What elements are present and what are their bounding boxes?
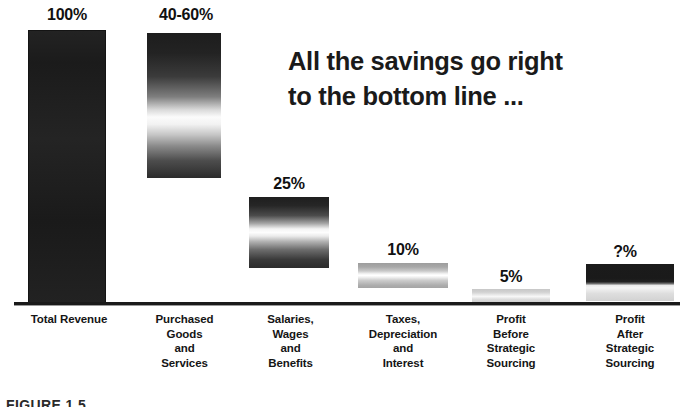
cat-line: Strategic <box>582 341 678 356</box>
value-label-salaries: 25% <box>249 175 329 193</box>
figure-caption: FIGURE 1.5 <box>6 398 86 407</box>
cat-line: Profit <box>582 312 678 327</box>
cat-line: Sourcing <box>463 356 559 371</box>
cat-line: and <box>349 341 457 356</box>
bar-total-revenue <box>28 30 106 303</box>
category-label-salaries: Salaries, Wages and Benefits <box>243 312 338 370</box>
callout-line-1: All the savings go right <box>288 44 688 79</box>
cat-line: Wages <box>243 327 338 342</box>
category-label-purchased-goods: Purchased Goods and Services <box>137 312 232 370</box>
cat-line: Depreciation <box>349 327 457 342</box>
cat-line: Total Revenue <box>14 312 124 327</box>
axis-baseline <box>14 302 680 305</box>
bar-taxes-depreciation-and-interest <box>358 263 448 288</box>
category-label-profit-after: Profit After Strategic Sourcing <box>582 312 678 370</box>
cat-line: Purchased <box>137 312 232 327</box>
value-label-total-revenue: 100% <box>28 6 106 24</box>
cat-line: Sourcing <box>582 356 678 371</box>
value-label-profit-after: ?% <box>586 243 664 261</box>
bar-profit-before-strategic-sourcing <box>472 289 550 302</box>
category-label-profit-before: Profit Before Strategic Sourcing <box>463 312 559 370</box>
cat-line: After <box>582 327 678 342</box>
figure-container: 100% 40-60% 25% 10% 5% ?% Total Revenue … <box>0 0 694 411</box>
category-label-taxes: Taxes, Depreciation and Interest <box>349 312 457 370</box>
bar-profit-after-strategic-sourcing <box>586 264 674 301</box>
cat-line: Services <box>137 356 232 371</box>
cat-line: and <box>137 341 232 356</box>
cat-line: Before <box>463 327 559 342</box>
value-label-purchased-goods: 40-60% <box>140 6 232 24</box>
cat-line: Profit <box>463 312 559 327</box>
value-label-profit-before: 5% <box>472 268 550 286</box>
cat-line: Interest <box>349 356 457 371</box>
cat-line: and <box>243 341 338 356</box>
cat-line: Taxes, <box>349 312 457 327</box>
cat-line: Strategic <box>463 341 559 356</box>
category-label-total-revenue: Total Revenue <box>14 312 124 327</box>
value-label-taxes: 10% <box>358 241 448 259</box>
bar-salaries-wages-and-benefits <box>249 197 329 268</box>
callout-line-2: to the bottom line ... <box>288 79 688 114</box>
callout-annotation: All the savings go right to the bottom l… <box>288 44 688 114</box>
bar-purchased-goods-and-services <box>147 33 221 178</box>
cat-line: Benefits <box>243 356 338 371</box>
cat-line: Salaries, <box>243 312 338 327</box>
cat-line: Goods <box>137 327 232 342</box>
